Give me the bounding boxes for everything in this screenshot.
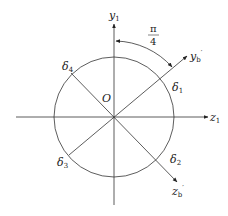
angle-arc <box>116 41 172 67</box>
delta1-label: δ1 <box>172 81 183 95</box>
delta4-label: δ4 <box>62 60 74 74</box>
zb-label: zb′ <box>171 184 184 199</box>
rotation-diagram: y1 π 4 yb′ δ4 O δ1 z1 δ3 δ2 zb′ <box>0 0 228 216</box>
yb-label: yb′ <box>189 49 203 64</box>
angle-numerator: π <box>150 23 157 34</box>
y1-label: y1 <box>108 9 120 23</box>
z1-label: z1 <box>209 111 220 125</box>
delta3-label: δ3 <box>57 156 68 170</box>
delta2-label: δ2 <box>170 153 181 167</box>
zb-axis <box>71 73 177 182</box>
origin-label: O <box>102 92 111 105</box>
angle-denominator: 4 <box>150 36 156 47</box>
